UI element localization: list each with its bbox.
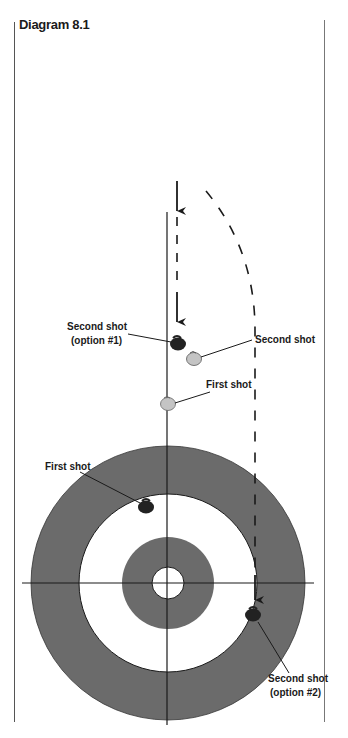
leader-first-shot-upper: [175, 392, 210, 403]
leader-second-shot: [201, 340, 252, 357]
curling-diagram: Second shot (option #1) Second shot Firs…: [0, 0, 348, 738]
label-second-shot-option1-line2: (option #1): [71, 335, 122, 346]
leader-second-shot-option1: [128, 334, 171, 342]
label-second-shot-option2-line1: Second shot: [268, 673, 329, 684]
label-second-shot-option1-line1: Second shot: [67, 321, 128, 332]
stone-first-shot-upper: [161, 397, 176, 411]
label-first-shot-house: First shot: [45, 461, 91, 472]
stone-second-shot: [187, 352, 202, 366]
label-second-shot-option2-line2: (option #2): [270, 687, 321, 698]
stone-second-shot-option1: [170, 336, 186, 351]
label-second-shot: Second shot: [255, 334, 316, 345]
label-first-shot-upper: First shot: [206, 379, 252, 390]
